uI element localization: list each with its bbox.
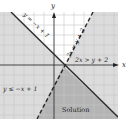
y-axis-label: y <box>50 2 56 10</box>
inequality-2-label: 2x > y + 2 <box>74 56 108 64</box>
inequality-1-label: y ≤ −x + 1 <box>2 85 37 93</box>
plot-area <box>0 12 118 119</box>
solution-label: Solution <box>62 106 89 114</box>
inequality-graph: x y y = −x + 1 2x = y + 2 2x > y + 2 y ≤… <box>0 0 131 122</box>
x-axis-label: x <box>122 61 126 69</box>
